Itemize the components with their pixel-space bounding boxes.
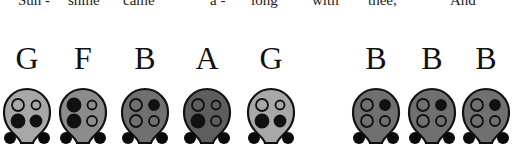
ocarina-fingering-icon bbox=[243, 84, 299, 150]
note-letter: B bbox=[351, 42, 401, 74]
note-letter: G bbox=[2, 42, 52, 74]
ocarina-fingering-icon bbox=[458, 84, 514, 150]
note-letter: A bbox=[182, 42, 232, 74]
lyric-syllable: came bbox=[123, 0, 155, 9]
note-letter: B bbox=[407, 42, 457, 74]
lyric-syllable: shine bbox=[68, 0, 100, 9]
lyric-syllable: And bbox=[450, 0, 476, 9]
ocarina-fingering-icon bbox=[179, 84, 235, 150]
note-letter: B bbox=[461, 42, 511, 74]
note-letter: B bbox=[120, 42, 170, 74]
lyric-syllable: Sun - bbox=[18, 0, 50, 9]
note-letter: F bbox=[58, 42, 108, 74]
note-letter: G bbox=[246, 42, 296, 74]
ocarina-fingering-icon bbox=[55, 84, 111, 150]
lyric-syllable: with bbox=[312, 0, 339, 9]
ocarina-fingering-icon bbox=[348, 84, 404, 150]
ocarina-fingering-icon bbox=[0, 84, 55, 150]
ocarina-fingering-icon bbox=[404, 84, 460, 150]
lyric-syllable: thee, bbox=[368, 0, 397, 9]
ocarina-fingering-icon bbox=[117, 84, 173, 150]
lyric-syllable: long bbox=[251, 0, 278, 9]
lyric-syllable: a - bbox=[210, 0, 225, 9]
